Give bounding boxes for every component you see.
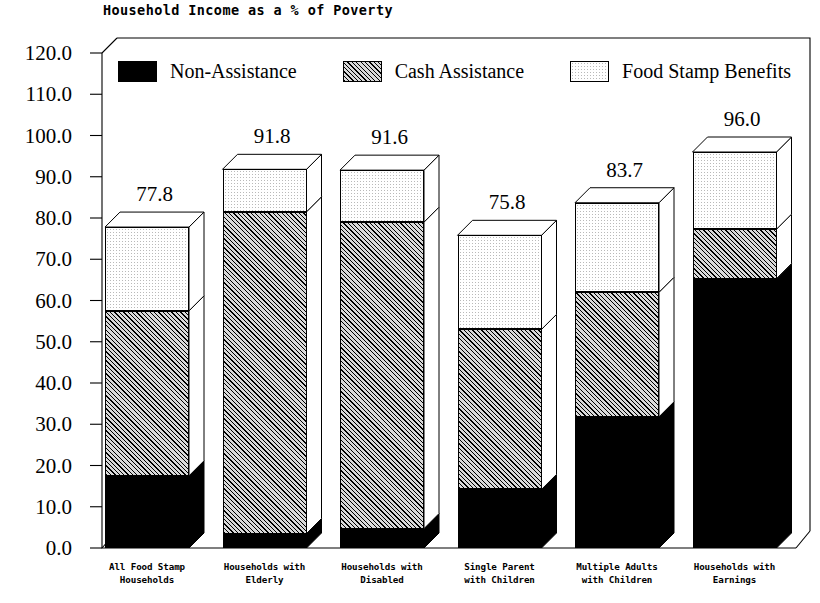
legend-swatch-icon [570, 61, 609, 82]
category-label-line: Households with [694, 561, 775, 574]
chart-legend: Non-AssistanceCash AssistanceFood Stamp … [118, 60, 820, 83]
legend-item-3[interactable]: Food Stamp Benefits [570, 60, 791, 83]
legend-label: Cash Assistance [395, 60, 524, 83]
legend-label: Food Stamp Benefits [622, 60, 791, 83]
category-label-line: Earnings [694, 574, 775, 587]
plot-area: 77.8All Food StampHouseholds91.8Househol… [0, 0, 820, 603]
bar-segment-dots[interactable] [693, 152, 777, 229]
bar-6[interactable] [693, 0, 777, 603]
x-axis-category-label: Households withEarnings [694, 561, 775, 586]
legend-item-1[interactable]: Non-Assistance [118, 60, 297, 83]
legend-item-2[interactable]: Cash Assistance [343, 60, 524, 83]
chart-container: Household Income as a % of Poverty 0.010… [0, 0, 820, 603]
bar-value-label: 96.0 [724, 107, 761, 132]
bar-segment-hatch[interactable] [693, 229, 777, 279]
bar-side-face [777, 137, 792, 229]
legend-label: Non-Assistance [170, 60, 297, 83]
bar-segment-black[interactable] [693, 279, 777, 548]
legend-swatch-icon [118, 61, 157, 82]
legend-swatch-icon [343, 61, 382, 82]
bar-side-face [777, 264, 792, 548]
